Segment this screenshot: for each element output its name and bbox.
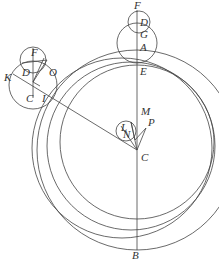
label-e: E [139,65,147,77]
geometric-diagram: F D G A E M P L N C B F K D O C I [0,0,219,262]
label-i: I [41,92,47,104]
label-n: N [122,128,131,140]
label-k: K [3,71,12,83]
line-d-to-o [22,60,47,63]
label-f-top: F [133,0,141,11]
label-d-top: D [139,16,148,28]
label-d-left: D [21,66,30,78]
line-c-to-i [33,82,40,86]
label-g: G [140,28,148,40]
label-p: P [147,116,155,128]
large-circle-outer [32,58,212,238]
line-m-to-n [131,122,135,140]
line-c-to-p [137,128,146,150]
label-a: A [139,41,147,53]
label-o: O [49,66,57,78]
label-c-center: C [141,151,149,163]
line-c-to-o [33,60,47,82]
line-k-to-c [13,74,137,150]
label-c-left: C [26,92,34,104]
large-circle-deferent [37,50,219,250]
label-f-left: F [30,46,38,58]
label-b: B [132,249,139,261]
